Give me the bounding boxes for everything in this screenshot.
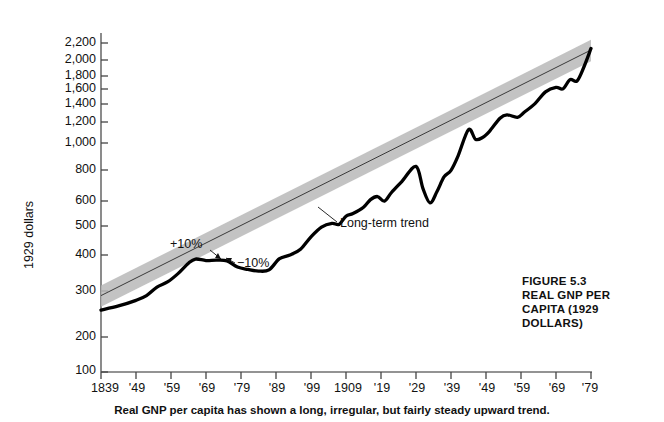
x-tick-labels: 1839 '49 '59 '69 '79 '89 '99 1909 '19 '2… (91, 381, 598, 395)
y-tick-label: 400 (75, 247, 96, 261)
x-tick-label: '99 (304, 381, 320, 395)
x-tick-label: '29 (409, 381, 425, 395)
long-term-trend-line (101, 50, 591, 296)
y-tick-label: 1,200 (65, 114, 96, 128)
x-tick-label: 1909 (334, 381, 362, 395)
y-tick-label: 600 (75, 193, 96, 207)
y-tick-label: 1,600 (65, 81, 96, 95)
figure-caption: Real GNP per capita has shown a long, ir… (114, 404, 550, 416)
x-tick-label: '49 (129, 381, 145, 395)
y-tick-label: 300 (75, 283, 96, 297)
figure-title-line: CAPITA (1929 (522, 303, 599, 315)
y-tick-label: 2,000 (65, 52, 96, 66)
trend-tolerance-band (101, 40, 591, 307)
y-tick-label: 800 (75, 162, 96, 176)
minus-ten-label: −10% (237, 256, 269, 270)
x-tick-label: '69 (199, 381, 215, 395)
x-tick-marks (101, 372, 591, 379)
plus-ten-label: +10% (170, 237, 202, 251)
annotation-long-term-trend: Long-term trend (318, 207, 429, 230)
y-tick-label: 2,200 (65, 35, 96, 49)
y-tick-label: 1,000 (65, 135, 96, 149)
x-tick-label: '79 (234, 381, 250, 395)
figure-title-block: FIGURE 5.3 REAL GNP PER CAPITA (1929 DOL… (522, 275, 611, 329)
y-axis-title: 1929 dollars (22, 201, 36, 269)
x-tick-label: '59 (514, 381, 530, 395)
y-tick-label: 1,800 (65, 68, 96, 82)
x-tick-label: '59 (164, 381, 180, 395)
y-tick-label: 1,400 (65, 96, 96, 110)
x-tick-label: '89 (269, 381, 285, 395)
gnp-per-capita-chart: 2,200 2,000 1,800 1,600 1,400 1,200 1,00… (0, 0, 664, 422)
plus-ten-arrow-icon (215, 253, 221, 259)
y-tick-marks (101, 43, 108, 372)
x-tick-label: '49 (479, 381, 495, 395)
x-tick-label: '39 (444, 381, 460, 395)
x-tick-label: '79 (582, 381, 598, 395)
figure-title-line: FIGURE 5.3 (522, 275, 587, 287)
y-tick-label: 100 (75, 363, 96, 377)
x-tick-label: '19 (374, 381, 390, 395)
y-tick-label: 500 (75, 218, 96, 232)
x-tick-label: '69 (549, 381, 565, 395)
x-tick-label: 1839 (91, 381, 119, 395)
y-tick-label: 200 (75, 329, 96, 343)
long-term-trend-label: Long-term trend (340, 216, 429, 230)
figure-root: 2,200 2,000 1,800 1,600 1,400 1,200 1,00… (0, 0, 664, 422)
long-term-trend-leader (318, 207, 337, 222)
y-tick-labels: 2,200 2,000 1,800 1,600 1,400 1,200 1,00… (65, 35, 96, 377)
figure-title-line: DOLLARS) (522, 317, 583, 329)
figure-title-line: REAL GNP PER (522, 289, 611, 301)
